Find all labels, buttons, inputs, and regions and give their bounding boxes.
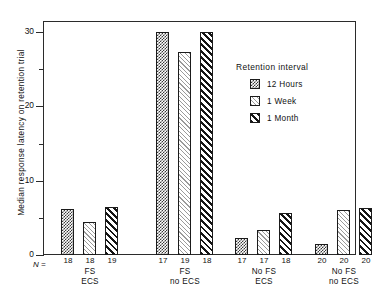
legend-label: 1 Week: [267, 97, 296, 106]
n-values-row: 171718: [231, 256, 297, 265]
n-value: 17: [152, 256, 174, 265]
bar-group: [61, 21, 127, 255]
n-value: 19: [101, 256, 123, 265]
bar-series-container: [43, 21, 356, 255]
legend-entries: 12 Hours1 Week1 Month: [236, 79, 348, 123]
legend-item: 1 Month: [236, 113, 348, 123]
legend-label: 12 Hours: [267, 80, 303, 89]
group-label-line2: no ECS: [311, 277, 376, 286]
n-value: 17: [231, 256, 253, 265]
legend-swatch-icon: [250, 96, 260, 106]
legend-label: 1 Month: [267, 114, 299, 123]
n-value: 18: [79, 256, 101, 265]
bar: [235, 238, 248, 255]
bar-group: [235, 21, 301, 255]
group-label-line1: No FS: [311, 267, 376, 276]
n-values-row: 202020: [311, 256, 376, 265]
x-group-label: 202020No FSno ECS: [311, 256, 376, 286]
n-value: 20: [355, 256, 376, 265]
legend: Retention interval 12 Hours1 Week1 Month: [236, 62, 348, 130]
n-prefix-label: N =: [33, 260, 46, 269]
group-label-line1: FS: [152, 267, 218, 276]
y-tick-label: 20: [4, 100, 34, 110]
n-value: 18: [57, 256, 79, 265]
legend-swatch-icon: [250, 79, 260, 89]
group-label-line2: ECS: [57, 277, 123, 286]
bar: [337, 210, 350, 255]
bar: [257, 230, 270, 255]
x-group-label: 181819FSECS: [57, 256, 123, 286]
n-value: 19: [174, 256, 196, 265]
group-label-line2: no ECS: [152, 277, 218, 286]
bar: [178, 52, 191, 255]
bar-group: [315, 21, 376, 255]
n-value: 20: [333, 256, 355, 265]
legend-swatch-icon: [250, 113, 260, 123]
bar: [279, 213, 292, 255]
bar-group: [156, 21, 222, 255]
bar: [359, 208, 372, 255]
n-value: 17: [253, 256, 275, 265]
bar: [83, 222, 96, 255]
group-label-line1: FS: [57, 267, 123, 276]
n-value: 20: [311, 256, 333, 265]
x-group-label: 171918FSno ECS: [152, 256, 218, 286]
legend-title: Retention interval: [236, 62, 348, 72]
group-label-line1: No FS: [231, 267, 297, 276]
n-value: 18: [196, 256, 218, 265]
bar: [315, 244, 328, 255]
x-axis: N = 181819FSECS171918FSno ECS171718No FS…: [0, 256, 366, 301]
bar: [200, 32, 213, 255]
n-value: 18: [275, 256, 297, 265]
legend-item: 1 Week: [236, 96, 348, 106]
y-tick-label: 10: [4, 175, 34, 185]
x-group-label: 171718No FSECS: [231, 256, 297, 286]
group-label-line2: ECS: [231, 277, 297, 286]
n-values-row: 171918: [152, 256, 218, 265]
legend-item: 12 Hours: [236, 79, 348, 89]
bar: [61, 209, 74, 255]
bar: [105, 207, 118, 255]
bar: [156, 32, 169, 255]
y-tick-label: 30: [4, 26, 34, 36]
n-values-row: 181819: [57, 256, 123, 265]
